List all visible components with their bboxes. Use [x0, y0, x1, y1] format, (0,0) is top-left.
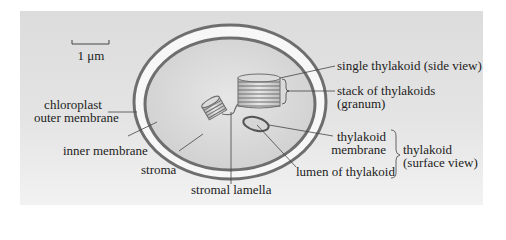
inner-membrane: [145, 38, 315, 170]
granum: [238, 74, 280, 108]
scale-bar: [72, 40, 109, 44]
label-outer-membrane-line2: outer membrane: [34, 111, 112, 124]
label-inner-membrane: inner membrane: [63, 144, 148, 157]
label-thylakoid-membrane-line2: membrane: [320, 143, 386, 156]
label-lumen: lumen of thylakoid: [296, 165, 395, 178]
label-surface-view-line2: (surface view): [403, 156, 478, 169]
label-stromal-lamella: stromal lamella: [191, 183, 272, 196]
label-granum-line2: (granum): [337, 97, 385, 110]
label-single-thylakoid: single thylakoid (side view): [337, 59, 482, 72]
label-stroma: stroma: [141, 163, 176, 176]
scale-bar-label: 1 μm: [73, 49, 109, 62]
